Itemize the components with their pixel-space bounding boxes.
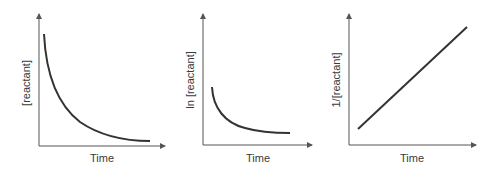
decay-curve: [44, 34, 150, 141]
chart-inverse-concentration-vs-time: Time 1/[reactant]: [330, 14, 476, 164]
y-axis-label: ln [reactant]: [184, 51, 196, 108]
rate-law-charts: Time [reactant] Time ln [reactant] Time …: [0, 0, 497, 170]
y-axis-label: [reactant]: [20, 60, 32, 106]
ln-curve: [212, 87, 290, 133]
y-axis-label: 1/[reactant]: [330, 52, 342, 107]
x-axis-label: Time: [90, 152, 114, 164]
chart-ln-concentration-vs-time: Time ln [reactant]: [184, 14, 312, 164]
linear-line: [358, 27, 467, 129]
x-axis-label: Time: [400, 152, 424, 164]
chart-concentration-vs-time: Time [reactant]: [20, 14, 165, 164]
x-axis-label: Time: [246, 152, 270, 164]
